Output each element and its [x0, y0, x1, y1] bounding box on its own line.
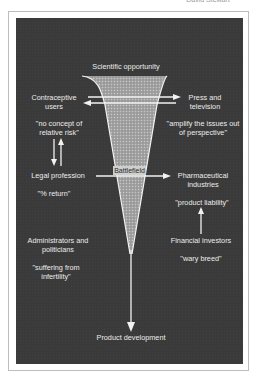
users-to-press-arrowhead	[173, 94, 181, 100]
product-development-label: Product development	[86, 333, 176, 342]
legal-profession-quote: "% return"	[34, 189, 74, 198]
users-to-legal-arrowhead	[51, 159, 57, 166]
legal-to-users-arrowhead	[58, 138, 64, 145]
battlefield-label: Battlefield	[113, 166, 146, 175]
product-development-arrowhead	[127, 322, 135, 332]
pharmaceutical-industries-label: Pharmaceutical industries	[172, 171, 234, 189]
investors-to-pharma-arrowhead	[198, 207, 204, 214]
press-television-label: Press and television	[182, 93, 228, 111]
administrators-label: Administrators and politicians	[22, 236, 94, 254]
contraceptive-users-quote: "no concept of relative risk"	[28, 119, 90, 137]
financial-investors-label: Financial investors	[164, 236, 238, 245]
financial-investors-quote: "wary breed"	[176, 254, 226, 263]
press-to-users-arrowhead	[83, 100, 91, 106]
contraceptive-users-label: Contraceptive users	[28, 93, 80, 111]
legal-profession-label: Legal profession	[24, 171, 92, 180]
legal-to-pharma-arrowhead	[163, 173, 171, 179]
press-television-quote: "amplify the issues out of perspective"	[166, 119, 240, 137]
pharmaceutical-industries-quote: "product liability"	[172, 198, 232, 207]
scientific-opportunity-label: Scientific opportunity	[84, 62, 168, 71]
administrators-quote: "suffering from infertility"	[26, 263, 86, 281]
